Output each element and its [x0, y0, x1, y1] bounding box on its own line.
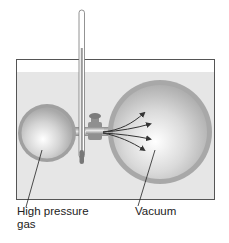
label-line-2: gas [17, 218, 89, 231]
label-line-1: High pressure [17, 205, 89, 218]
thermometer [79, 10, 85, 164]
label-high-pressure-gas: High pressure gas [17, 205, 89, 231]
small-bulb [18, 104, 76, 162]
large-bulb [108, 80, 212, 184]
label-vacuum: Vacuum [135, 205, 176, 218]
